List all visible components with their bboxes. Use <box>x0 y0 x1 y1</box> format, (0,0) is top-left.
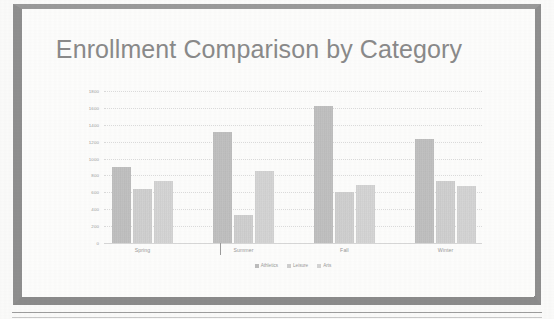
bar-group <box>415 91 476 243</box>
y-axis-tick-label: 0 <box>96 241 99 246</box>
text-cursor-artifact <box>220 243 221 255</box>
bar[interactable] <box>436 181 455 243</box>
bar[interactable] <box>213 132 232 243</box>
bar-group <box>213 91 274 243</box>
x-axis-label: Summer <box>213 247 274 261</box>
y-axis-tick-label: 800 <box>91 173 99 178</box>
page-divider-line <box>12 312 542 313</box>
legend-swatch-icon <box>317 264 321 268</box>
bar-groups <box>104 91 482 243</box>
x-axis-label: Winter <box>415 247 476 261</box>
legend-label: Athletics <box>261 263 278 268</box>
bar[interactable] <box>356 185 375 243</box>
y-axis-tick-label: 1200 <box>89 139 99 144</box>
y-axis-tick-label: 600 <box>91 190 99 195</box>
bar[interactable] <box>255 171 274 243</box>
bar-group <box>314 91 375 243</box>
bar-group <box>112 91 173 243</box>
slide-canvas: Enrollment Comparison by Category 020040… <box>22 9 534 297</box>
y-axis-tick-label: 1800 <box>89 89 99 94</box>
bar[interactable] <box>457 186 476 243</box>
bar[interactable] <box>234 215 253 243</box>
bar[interactable] <box>314 106 333 243</box>
chart-legend: AthleticsLeisureArts <box>104 263 482 268</box>
bar[interactable] <box>112 167 131 243</box>
legend-item[interactable]: Arts <box>317 263 331 268</box>
legend-label: Leisure <box>293 263 308 268</box>
x-axis-label: Fall <box>314 247 375 261</box>
x-axis-labels: SpringSummerFallWinter <box>104 247 482 261</box>
legend-swatch-icon <box>287 264 291 268</box>
legend-item[interactable]: Athletics <box>255 263 278 268</box>
page-divider-line-secondary <box>12 317 542 318</box>
legend-swatch-icon <box>255 264 259 268</box>
bar[interactable] <box>133 189 152 243</box>
scanned-page: Enrollment Comparison by Category 020040… <box>0 0 554 319</box>
legend-item[interactable]: Leisure <box>287 263 308 268</box>
bar[interactable] <box>154 181 173 243</box>
x-axis-label: Spring <box>112 247 173 261</box>
bar[interactable] <box>335 192 354 243</box>
y-axis-tick-label: 400 <box>91 207 99 212</box>
legend-label: Arts <box>323 263 331 268</box>
y-axis-tick-label: 200 <box>91 224 99 229</box>
y-axis-tick-label: 1400 <box>89 122 99 127</box>
chart-title: Enrollment Comparison by Category <box>22 35 496 64</box>
bar[interactable] <box>415 139 434 243</box>
bar-chart[interactable]: 020040060080010001200140016001800 Spring… <box>60 87 490 267</box>
plot-area: 020040060080010001200140016001800 <box>104 91 482 244</box>
y-axis-tick-label: 1600 <box>89 105 99 110</box>
y-axis-tick-label: 1000 <box>89 156 99 161</box>
